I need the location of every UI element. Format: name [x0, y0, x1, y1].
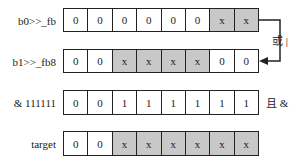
- bit-cell: x: [235, 9, 258, 31]
- bit-cell: x: [137, 50, 161, 72]
- bit-cell: 1: [137, 91, 161, 114]
- bit-cell: x: [235, 132, 258, 155]
- row-label-b1: b1>>_fb8: [0, 55, 56, 69]
- or-operator-label: 或 |: [272, 34, 288, 48]
- bit-cell: 0: [88, 91, 112, 114]
- bit-cell: 0: [137, 9, 161, 31]
- bit-cell: 0: [113, 9, 137, 31]
- bit-cell: 0: [64, 132, 88, 155]
- bit-cell: 0: [162, 9, 186, 31]
- bit-cell: 0: [88, 9, 112, 31]
- bit-cell: 1: [113, 91, 137, 114]
- row-label-mask: & 111111: [0, 96, 56, 110]
- bit-cell: x: [186, 50, 210, 72]
- bit-cell: 0: [186, 9, 210, 31]
- bit-cell: 0: [64, 9, 88, 31]
- bit-cell: 0: [64, 91, 88, 114]
- bit-cell: x: [113, 50, 137, 72]
- bit-cell: x: [210, 9, 234, 31]
- bit-row-mask: 0 0 1 1 1 1 1 1: [63, 90, 259, 115]
- bit-cell: 1: [186, 91, 210, 114]
- bit-cell: x: [186, 132, 210, 155]
- bit-row-b1: 0 0 x x x x 0 0: [63, 49, 259, 73]
- bit-cell: 1: [162, 91, 186, 114]
- bit-cell: x: [113, 132, 137, 155]
- bit-cell: 0: [88, 50, 112, 72]
- bit-cell: 1: [210, 91, 234, 114]
- bit-row-b0: 0 0 0 0 0 0 x x: [63, 8, 259, 32]
- bit-cell: x: [137, 132, 161, 155]
- bit-cell: 1: [235, 91, 258, 114]
- and-operator-label: 且 &: [266, 96, 288, 110]
- bit-cell: x: [162, 50, 186, 72]
- row-label-b0: b0>>_fb: [0, 14, 56, 28]
- bit-cell: x: [162, 132, 186, 155]
- bit-cell: 0: [64, 50, 88, 72]
- bit-row-target: 0 0 x x x x x x: [63, 131, 259, 156]
- bit-cell: 0: [210, 50, 234, 72]
- bit-cell: x: [210, 132, 234, 155]
- bit-cell: 0: [235, 50, 258, 72]
- bit-cell: 0: [88, 132, 112, 155]
- row-label-target: target: [0, 137, 56, 151]
